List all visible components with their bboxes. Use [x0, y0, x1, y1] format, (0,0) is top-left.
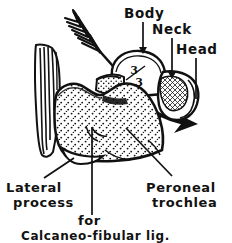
label-head: Head [176, 41, 218, 57]
anatomical-figure: 3 3 [0, 0, 232, 243]
label-peroneal-line1: Peroneal [146, 180, 216, 195]
figure-svg: 3 3 [0, 0, 232, 243]
calcaneus-body [54, 83, 163, 164]
label-body: Body [124, 5, 164, 21]
talus-head [158, 71, 198, 120]
label-lateral-process-line2: process [13, 195, 74, 210]
label-lateral-process-line1: Lateral [6, 180, 62, 195]
label-ligament-line1: for [78, 213, 101, 228]
label-peroneal-line2: trochlea [152, 195, 217, 210]
label-ligament-line2: Calcaneo-fibular lig. [21, 229, 170, 243]
talus-head-texture [160, 76, 188, 110]
label-neck: Neck [152, 21, 192, 37]
